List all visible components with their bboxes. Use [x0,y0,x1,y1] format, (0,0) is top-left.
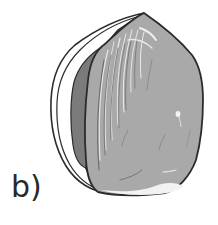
seed-figure: b) [0,0,218,225]
panel-label: b) [11,170,42,204]
kernel-highlight-spot [176,111,181,117]
